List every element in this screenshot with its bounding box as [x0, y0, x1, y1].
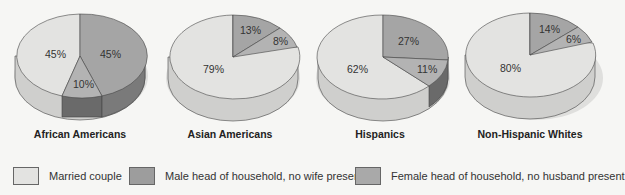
legend-swatch — [129, 167, 155, 185]
legend: Married couple Male head of household, n… — [0, 164, 612, 188]
pie-african-americans: 45% 45% 10% African Americans — [5, 0, 155, 155]
pie-chart-graphic: 13% 8% 79% — [155, 0, 305, 130]
pct-married: 45% — [45, 48, 66, 60]
pie-title: Asian Americans — [155, 128, 305, 140]
legend-label: Married couple — [49, 170, 122, 182]
pct-married: 62% — [347, 63, 368, 75]
legend-label: Female head of household, no husband pre… — [391, 170, 625, 182]
legend-item-female: Female head of household, no husband pre… — [355, 164, 625, 188]
pie-chart-graphic: 27% 11% 62% — [305, 0, 455, 130]
pie-chart-graphic: 45% 45% 10% — [5, 0, 155, 130]
pct-female: 13% — [240, 24, 261, 36]
pct-male: 6% — [566, 33, 581, 45]
pie-title: Non-Hispanic Whites — [455, 128, 605, 140]
pct-male: 10% — [73, 78, 94, 90]
pie-non-hispanic-whites: 14% 6% 80% Non-Hispanic Whites — [455, 0, 605, 155]
legend-swatch — [355, 167, 381, 185]
pct-male: 8% — [273, 35, 288, 47]
pie-title: African Americans — [5, 128, 155, 140]
pct-married: 79% — [203, 63, 224, 75]
legend-label: Male head of household, no wife present — [165, 170, 363, 182]
pie-asian-americans: 13% 8% 79% Asian Americans — [155, 0, 305, 155]
pct-married: 80% — [500, 62, 521, 74]
legend-item-married: Married couple — [13, 164, 122, 188]
pct-female: 27% — [398, 35, 419, 47]
pct-male: 11% — [417, 63, 437, 75]
pie-hispanics: 27% 11% 62% Hispanics — [305, 0, 455, 155]
pct-female: 14% — [539, 23, 560, 35]
pie-title: Hispanics — [305, 128, 455, 140]
legend-swatch — [13, 167, 39, 185]
pie-chart-graphic: 14% 6% 80% — [455, 0, 612, 130]
pct-female: 45% — [100, 48, 121, 60]
legend-item-male: Male head of household, no wife present — [129, 164, 363, 188]
